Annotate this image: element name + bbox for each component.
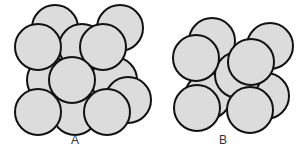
packing-panel-b [173, 18, 293, 133]
sphere-front [227, 87, 273, 133]
panel-label-a: A [65, 133, 85, 147]
sphere-front [228, 39, 274, 85]
sphere-front [15, 24, 61, 70]
packing-panel-a [15, 5, 151, 135]
panel-label-b: B [213, 133, 233, 147]
sphere-front [173, 35, 219, 81]
sphere-front [15, 89, 61, 135]
sphere-front [84, 89, 130, 135]
sphere-front [174, 85, 220, 131]
sphere-packing-diagram [0, 0, 300, 154]
